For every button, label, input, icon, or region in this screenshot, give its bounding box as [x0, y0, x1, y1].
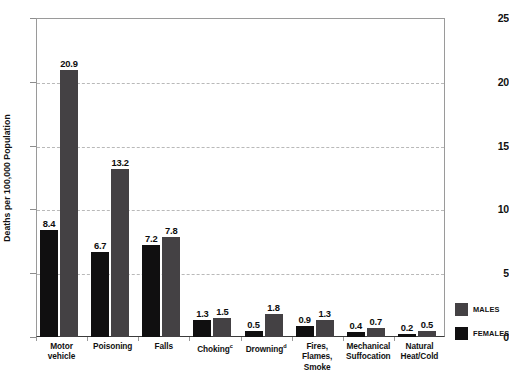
bar-group: 0.51.8: [241, 18, 292, 337]
category-label-line: Smoke: [292, 362, 343, 372]
bar-males: 6.7: [91, 252, 109, 337]
category-label-line: Heat/Cold: [394, 351, 445, 361]
legend-swatch-icon: [455, 327, 468, 340]
bar-females: 20.9: [60, 70, 78, 337]
bar-females: 1.8: [265, 314, 283, 337]
bar-group: 0.20.5: [394, 18, 445, 337]
legend: MALESFEMALES: [455, 303, 509, 351]
bar-value-label: 1.8: [267, 302, 279, 313]
x-axis-category-label: Motorvehicle: [36, 341, 87, 362]
bar-females: 1.3: [316, 320, 334, 337]
bar-value-label: 0.9: [298, 314, 310, 325]
bar-value-label: 0.4: [350, 320, 362, 331]
category-label-line: Mechanical: [343, 341, 394, 351]
category-label-line: Natural: [394, 341, 445, 351]
category-label-line: Suffocation: [343, 351, 394, 361]
legend-item: MALES: [455, 303, 509, 316]
bar-males: 0.9: [296, 326, 314, 337]
bar-value-label: 1.3: [318, 308, 330, 319]
bar-females: 13.2: [111, 169, 129, 337]
bar-value-label: 6.7: [94, 240, 106, 251]
bar-value-label: 0.5: [247, 319, 259, 330]
x-axis-category-label: Drowningd: [241, 341, 292, 354]
bar-males: 0.2: [398, 334, 416, 337]
x-axis-category-label: Poisoning: [87, 341, 138, 351]
x-axis-category-label: Fires, Flames,Smoke: [292, 341, 343, 372]
bar-value-label: 7.2: [145, 233, 157, 244]
category-label-line: Falls: [138, 341, 189, 351]
bar-value-label: 1.3: [196, 308, 208, 319]
bar-females: 0.7: [367, 328, 385, 337]
bar-group: 1.31.5: [189, 18, 240, 337]
category-label-line: Fires, Flames,: [292, 341, 343, 362]
x-axis-category-label: MechanicalSuffocation: [343, 341, 394, 362]
bar-value-label: 20.9: [60, 58, 77, 69]
bar-males: 1.3: [193, 320, 211, 337]
y-axis-tick-label: 25: [485, 12, 509, 24]
bar-group: 0.40.7: [343, 18, 394, 337]
bar-value-label: 0.5: [421, 319, 433, 330]
category-label-line: vehicle: [36, 351, 87, 361]
legend-item: FEMALES: [455, 327, 509, 340]
y-axis-tick-label: 5: [485, 267, 509, 279]
bar-value-label: 1.5: [216, 306, 228, 317]
bar-group: 7.27.8: [138, 18, 189, 337]
bar-value-label: 0.7: [370, 316, 382, 327]
y-axis-label-wrapper: Deaths per 100,000 Population: [0, 18, 16, 337]
footnote-marker: d: [283, 343, 286, 349]
x-axis-category-label: NaturalHeat/Cold: [394, 341, 445, 362]
y-axis-tick-label: 15: [485, 140, 509, 152]
category-label-line: Drowningd: [241, 341, 292, 354]
x-axis-category-label: Chokingc: [189, 341, 240, 354]
chart-container: Deaths per 100,000 Population 0510152025…: [0, 0, 509, 379]
bar-males: 8.4: [40, 230, 58, 337]
bar-group: 8.420.9: [36, 18, 87, 337]
x-axis-category-labels: MotorvehiclePoisoningFallsChokingcDrowni…: [36, 341, 445, 375]
bar-value-label: 13.2: [111, 157, 128, 168]
y-axis-tick-label: 20: [485, 76, 509, 88]
bar-value-label: 8.4: [43, 218, 55, 229]
bar-females: 0.5: [418, 331, 436, 337]
category-label-line: Motor: [36, 341, 87, 351]
bar-value-label: 7.8: [165, 225, 177, 236]
bar-males: 0.5: [245, 331, 263, 337]
bars-layer: 8.420.96.713.27.27.81.31.50.51.80.91.30.…: [36, 18, 445, 337]
category-label-line: Poisoning: [87, 341, 138, 351]
bar-females: 7.8: [162, 237, 180, 337]
x-axis-category-label: Falls: [138, 341, 189, 351]
y-axis-label: Deaths per 100,000 Population: [2, 114, 12, 242]
y-axis-tick-label: 10: [485, 203, 509, 215]
bar-males: 0.4: [347, 332, 365, 337]
legend-label: MALES: [473, 305, 500, 314]
bar-group: 0.91.3: [292, 18, 343, 337]
bar-females: 1.5: [213, 318, 231, 337]
bar-males: 7.2: [142, 245, 160, 337]
bar-group: 6.713.2: [87, 18, 138, 337]
legend-swatch-icon: [455, 303, 468, 316]
category-label-line: Chokingc: [189, 341, 240, 354]
bar-value-label: 0.2: [401, 322, 413, 333]
footnote-marker: c: [230, 343, 233, 349]
legend-label: FEMALES: [473, 329, 509, 338]
